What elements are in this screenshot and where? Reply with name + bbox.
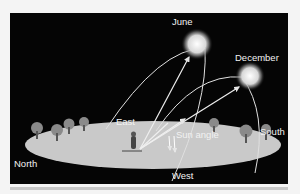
label-west: West: [172, 170, 193, 181]
june-sun-icon: [181, 28, 213, 60]
divider: [10, 187, 288, 190]
label-north: North: [14, 158, 37, 169]
label-june: June: [172, 16, 193, 27]
label-south: South: [260, 126, 285, 137]
label-december: December: [235, 52, 279, 63]
label-east: East: [116, 116, 135, 127]
diagram-panel: June December East Sun angle South North…: [10, 13, 288, 184]
december-sun-icon: [235, 61, 265, 91]
label-sun-angle: Sun angle: [176, 129, 219, 140]
sun-path-illustration: [10, 13, 288, 184]
